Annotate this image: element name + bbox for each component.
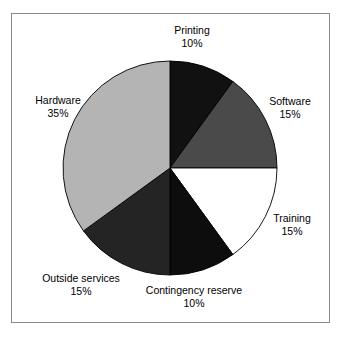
slice-label-printing-value: 10% xyxy=(149,37,235,50)
slice-label-outside-services-value: 15% xyxy=(22,285,140,298)
slice-label-printing: Printing 10% xyxy=(149,24,235,50)
slice-label-training-value: 15% xyxy=(256,225,328,238)
slice-label-training: Training 15% xyxy=(256,212,328,238)
slice-label-hardware-name: Hardware xyxy=(16,94,100,107)
slice-label-outside-services: Outside services 15% xyxy=(22,272,140,298)
slice-label-contingency-reserve-name: Contingency reserve xyxy=(128,284,260,297)
slice-label-contingency-reserve-value: 10% xyxy=(128,297,260,310)
slice-label-software-name: Software xyxy=(252,95,328,108)
slice-label-outside-services-name: Outside services xyxy=(22,272,140,285)
slice-label-training-name: Training xyxy=(256,212,328,225)
slice-label-hardware: Hardware 35% xyxy=(16,94,100,120)
slice-label-software-value: 15% xyxy=(252,108,328,121)
slice-label-hardware-value: 35% xyxy=(16,107,100,120)
slice-label-printing-name: Printing xyxy=(149,24,235,37)
slice-label-software: Software 15% xyxy=(252,95,328,121)
pie-chart-figure: Printing 10% Software 15% Training 15% C… xyxy=(0,0,341,338)
slice-label-contingency-reserve: Contingency reserve 10% xyxy=(128,284,260,310)
